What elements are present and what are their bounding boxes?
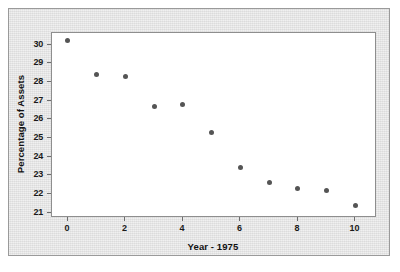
- figure-panel: Percentage of Assets Year - 1975 2122232…: [8, 8, 390, 256]
- y-axis-tick-label: 21: [33, 207, 43, 217]
- x-axis-tick-mark: [239, 217, 240, 221]
- y-axis-title: Percentage of Assets: [15, 75, 26, 173]
- x-axis-tick-mark: [124, 217, 125, 221]
- y-axis-tick-label: 28: [33, 76, 43, 86]
- y-axis-tick-label: 24: [33, 151, 43, 161]
- y-axis-tick-label: 25: [33, 132, 43, 142]
- x-axis-tick-mark: [297, 217, 298, 221]
- x-axis-tick-label: 6: [237, 223, 242, 233]
- y-axis-tick-label: 30: [33, 39, 43, 49]
- x-axis-tick-label: 2: [122, 223, 127, 233]
- data-point: [65, 38, 70, 43]
- x-axis-tick-label: 4: [179, 223, 184, 233]
- x-axis-tick-mark: [354, 217, 355, 221]
- data-point: [295, 186, 300, 191]
- x-axis-tick-label: 0: [64, 223, 69, 233]
- scatter-series: [52, 33, 375, 216]
- data-point: [180, 102, 185, 107]
- y-axis-tick-label: 27: [33, 95, 43, 105]
- plot-area: [51, 32, 376, 217]
- data-point: [353, 203, 358, 208]
- data-point: [267, 180, 272, 185]
- data-point: [94, 72, 99, 77]
- x-axis-tick-label: 8: [295, 223, 300, 233]
- y-axis-tick-label: 23: [33, 169, 43, 179]
- data-point: [324, 188, 329, 193]
- x-axis-tick-label: 10: [350, 223, 360, 233]
- x-axis-title: Year - 1975: [188, 241, 239, 252]
- x-axis-tick-mark: [182, 217, 183, 221]
- data-point: [238, 165, 243, 170]
- data-point: [209, 130, 214, 135]
- y-axis-tick-label: 29: [33, 57, 43, 67]
- x-axis-tick-mark: [67, 217, 68, 221]
- data-point: [152, 104, 157, 109]
- y-axis-tick-label: 26: [33, 113, 43, 123]
- y-axis-tick-label: 22: [33, 188, 43, 198]
- data-point: [123, 74, 128, 79]
